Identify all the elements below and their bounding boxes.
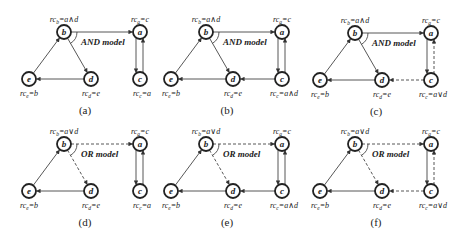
svg-text:c: c — [280, 74, 284, 84]
svg-text:e: e — [318, 75, 322, 85]
panel-caption: (f) — [371, 216, 382, 229]
panel-caption: (a) — [79, 104, 92, 117]
label-rc-c: rcc=a — [133, 89, 151, 99]
svg-text:c: c — [138, 186, 142, 196]
label-rc-e: rce=b — [20, 201, 38, 211]
node-d: d — [375, 73, 389, 87]
node-a: a — [424, 137, 438, 151]
node-b: b — [199, 137, 213, 151]
node-b: b — [348, 26, 362, 40]
label-rc-b: rcb=a∨d — [192, 127, 221, 137]
node-e: e — [313, 184, 327, 198]
label-rc-d: rcd=e — [224, 201, 243, 211]
label-rc-c: rcc=a — [133, 201, 151, 211]
label-rc-a: rca=c — [422, 16, 441, 26]
node-b: b — [199, 25, 213, 39]
node-e: e — [22, 72, 36, 86]
panel-e: OR modelbaedcrcb=a∨drca=crce=brcd=ercc=a… — [162, 127, 299, 229]
svg-text:e: e — [169, 186, 173, 196]
label-rc-b: rcb=a∧d — [50, 15, 79, 25]
svg-text:e: e — [27, 74, 31, 84]
model-label: OR model — [81, 149, 119, 159]
label-rc-a: rca=c — [273, 15, 292, 25]
svg-text:d: d — [380, 75, 385, 85]
label-rc-b: rcb=a∧d — [192, 15, 221, 25]
svg-text:d: d — [231, 186, 236, 196]
label-rc-e: rce=b — [20, 89, 38, 99]
figure-canvas: AND modelbaedcrcb=a∧drca=crce=brcd=ercc=… — [0, 0, 468, 242]
edge-e-to-b — [33, 150, 59, 185]
svg-text:c: c — [280, 186, 284, 196]
nodes: baedc — [313, 137, 438, 198]
label-rc-d: rcd=e — [82, 201, 101, 211]
graph-figure: AND modelbaedcrcb=a∧drca=crce=brcd=ercc=… — [0, 0, 468, 242]
svg-text:b: b — [62, 139, 67, 149]
node-c: c — [275, 72, 289, 86]
nodes: baedc — [164, 137, 289, 198]
node-c: c — [424, 184, 438, 198]
nodes: baedc — [22, 137, 147, 198]
label-rc-e: rce=b — [162, 89, 180, 99]
label-rc-c: rcc=a∨d — [419, 201, 448, 211]
svg-text:b: b — [62, 27, 67, 37]
svg-text:a: a — [138, 27, 143, 37]
label-rc-c: rcc=a∧d — [270, 201, 299, 211]
node-a: a — [424, 26, 438, 40]
node-b: b — [57, 137, 71, 151]
svg-text:d: d — [231, 74, 236, 84]
label-rc-a: rca=c — [273, 127, 292, 137]
label-rc-e: rce=b — [311, 201, 329, 211]
label-rc-e: rce=b — [162, 201, 180, 211]
svg-text:a: a — [429, 139, 434, 149]
svg-text:d: d — [89, 186, 94, 196]
label-rc-a: rca=c — [131, 15, 150, 25]
node-d: d — [226, 72, 240, 86]
panel-c: AND modelbaedcrcb=a∧drca=crce=brcd=ercc=… — [311, 16, 448, 118]
node-e: e — [313, 73, 327, 87]
node-a: a — [275, 137, 289, 151]
model-label: OR model — [223, 149, 261, 159]
label-rc-e: rce=b — [311, 90, 329, 100]
node-a: a — [133, 137, 147, 151]
node-b: b — [57, 25, 71, 39]
svg-text:b: b — [204, 27, 209, 37]
svg-text:d: d — [89, 74, 94, 84]
svg-text:e: e — [169, 74, 173, 84]
label-rc-a: rca=c — [131, 127, 150, 137]
panel-caption: (c) — [370, 105, 383, 118]
edge-e-to-b — [175, 150, 201, 185]
node-e: e — [22, 184, 36, 198]
svg-text:b: b — [204, 139, 209, 149]
node-c: c — [133, 184, 147, 198]
svg-text:e: e — [318, 186, 322, 196]
svg-text:c: c — [138, 74, 142, 84]
svg-text:a: a — [429, 28, 434, 38]
panel-a: AND modelbaedcrcb=a∧drca=crce=brcd=ercc=… — [20, 15, 151, 117]
nodes: baedc — [313, 26, 438, 87]
svg-text:c: c — [429, 186, 433, 196]
label-rc-d: rcd=e — [373, 201, 392, 211]
label-rc-d: rcd=e — [82, 89, 101, 99]
panel-caption: (d) — [79, 216, 92, 229]
label-rc-c: rcc=a∧d — [270, 89, 299, 99]
svg-text:b: b — [353, 28, 358, 38]
panel-caption: (b) — [221, 104, 234, 117]
edge-e-to-b — [324, 39, 350, 74]
label-rc-b: rcb=a∨d — [341, 127, 370, 137]
model-label: OR model — [372, 149, 410, 159]
node-a: a — [275, 25, 289, 39]
edge-e-to-b — [324, 150, 350, 185]
svg-text:c: c — [429, 75, 433, 85]
model-label: AND model — [371, 38, 416, 48]
node-c: c — [133, 72, 147, 86]
panel-f: OR modelbaedcrcb=a∨drca=crce=brcd=ercc=a… — [311, 127, 448, 229]
nodes: baedc — [22, 25, 147, 86]
label-rc-b: rcb=a∨d — [50, 127, 79, 137]
node-c: c — [424, 73, 438, 87]
svg-text:e: e — [27, 186, 31, 196]
edge-e-to-b — [33, 38, 59, 73]
svg-text:a: a — [138, 139, 143, 149]
node-e: e — [164, 184, 178, 198]
svg-text:a: a — [280, 139, 285, 149]
node-d: d — [84, 184, 98, 198]
